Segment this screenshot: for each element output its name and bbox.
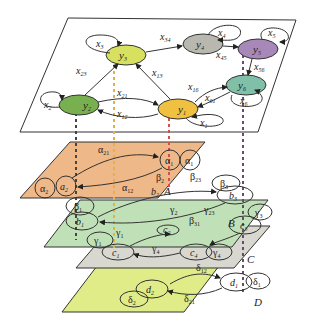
node-y5: y5 [238, 39, 278, 59]
svg-text:β3: β3 [220, 178, 228, 190]
svg-text:β23: β23 [190, 171, 201, 183]
svg-text:C: C [247, 253, 255, 265]
svg-text:b3: b3 [229, 190, 237, 202]
svg-text:d1: d1 [230, 277, 238, 289]
svg-text:D: D [253, 296, 262, 308]
multilayer-network-diagram: y3 y4 y5 y2 y1 y6 [0, 0, 313, 328]
node-y1: y1 [158, 99, 198, 119]
node-y6: y6 [226, 75, 266, 95]
node-y2: y2 [59, 95, 99, 115]
svg-text:δ1: δ1 [253, 276, 261, 288]
node-y3: y3 [106, 45, 146, 65]
